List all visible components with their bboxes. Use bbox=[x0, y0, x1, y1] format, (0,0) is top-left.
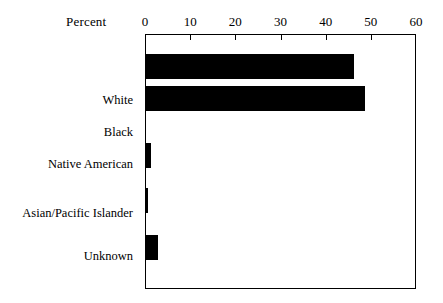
x-tick-label-10: 10 bbox=[184, 14, 197, 30]
x-tick-label-60: 60 bbox=[410, 14, 423, 30]
bars-layer bbox=[146, 35, 415, 288]
bar-black bbox=[146, 86, 365, 111]
bar-white bbox=[146, 54, 354, 79]
x-tick-label-20: 20 bbox=[229, 14, 242, 30]
category-label-black: Black bbox=[0, 125, 139, 140]
bar-native-american bbox=[146, 143, 151, 168]
bar-unknown bbox=[146, 235, 158, 260]
x-tick-label-0: 0 bbox=[142, 14, 149, 30]
category-label-unknown: Unknown bbox=[0, 249, 139, 264]
x-tick-label-50: 50 bbox=[364, 14, 377, 30]
x-axis-tick-labels: 0 10 20 30 40 50 60 bbox=[0, 14, 443, 30]
bar-asian-pacific-islander bbox=[146, 188, 148, 213]
bar-chart: Percent 0 10 20 30 40 50 60 White Black … bbox=[0, 0, 443, 303]
category-label-native-american: Native American bbox=[0, 157, 139, 172]
category-label-white: White bbox=[0, 93, 139, 108]
category-label-asian-pacific-islander: Asian/Pacific Islander bbox=[0, 206, 139, 221]
x-tick-label-30: 30 bbox=[274, 14, 287, 30]
x-tick-label-40: 40 bbox=[319, 14, 332, 30]
y-axis-category-labels: White Black Native American Asian/Pacifi… bbox=[0, 34, 139, 289]
